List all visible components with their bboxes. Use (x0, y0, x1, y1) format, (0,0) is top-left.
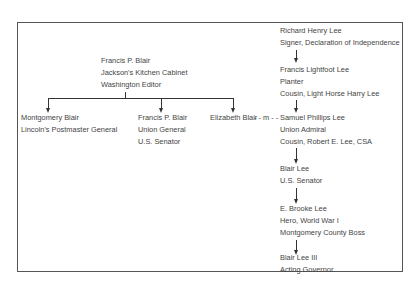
node-name: Montgomery Blair (21, 112, 117, 124)
node-role: Cousin, Light Horse Harry Lee (280, 88, 379, 100)
node-role: Lincoln's Postmaster General (21, 124, 117, 136)
node-role: Hero, World War I (280, 215, 365, 227)
sibling-bar-line (48, 98, 234, 99)
marriage-connector: - - m - - (254, 112, 278, 124)
node-name: Richard Henry Lee (280, 25, 400, 37)
node-e-brooke-lee: E. Brooke Lee Hero, World War I Montgome… (280, 203, 365, 239)
node-elizabeth-blair: Elizabeth Blair (210, 112, 257, 124)
node-name: Francis P. Blair (101, 55, 187, 67)
node-richard-henry-lee: Richard Henry Lee Signer, Declaration of… (280, 25, 400, 49)
node-francis-lightfoot-lee: Francis Lightfoot Lee Planter Cousin, Li… (280, 64, 379, 100)
node-role: Montgomery County Boss (280, 227, 365, 239)
node-francis-p-blair-sr: Francis P. Blair Jackson's Kitchen Cabin… (101, 55, 187, 91)
node-role: U.S. Senator (280, 175, 322, 187)
node-role: Acting Governor (280, 264, 333, 276)
node-name: Samuel Phillips Lee (280, 112, 372, 124)
arrow-down-icon (294, 58, 298, 63)
node-role: Planter (280, 76, 379, 88)
node-name: Francis Lightfoot Lee (280, 64, 379, 76)
node-role: Union Admiral (280, 124, 372, 136)
node-role: Signer, Declaration of Independence (280, 37, 400, 49)
node-role: Union General (138, 124, 187, 136)
node-role: Washington Editor (101, 79, 187, 91)
node-name: Francis P. Blair (138, 112, 187, 124)
node-blair-lee: Blair Lee U.S. Senator (280, 163, 322, 187)
node-name: Blair Lee (280, 163, 322, 175)
node-blair-lee-iii: Blair Lee III Acting Governor (280, 252, 333, 276)
node-francis-p-blair-jr: Francis P. Blair Union General U.S. Sena… (138, 112, 187, 148)
node-samuel-phillips-lee: Samuel Phillips Lee Union Admiral Cousin… (280, 112, 372, 148)
node-name: Blair Lee III (280, 252, 333, 264)
node-name: E. Brooke Lee (280, 203, 365, 215)
node-role: U.S. Senator (138, 136, 187, 148)
node-role: Jackson's Kitchen Cabinet (101, 67, 187, 79)
node-name: Elizabeth Blair (210, 112, 257, 124)
node-montgomery-blair: Montgomery Blair Lincoln's Postmaster Ge… (21, 112, 117, 136)
node-role: Cousin, Robert E. Lee, CSA (280, 136, 372, 148)
